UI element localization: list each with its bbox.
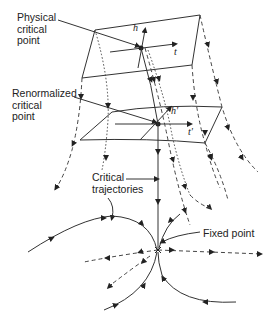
- h-prime-symbol: h': [171, 105, 178, 116]
- diagram-canvas: [0, 0, 274, 325]
- h-symbol: h: [133, 22, 138, 33]
- t-symbol: t: [174, 46, 177, 57]
- t-prime-symbol: t': [188, 126, 193, 137]
- fixed-point-label: Fixed point: [203, 228, 254, 240]
- leader-lines: [58, 20, 200, 242]
- critical-trajectory-main: [141, 48, 158, 250]
- physical-critical-point-label: Physical critical point: [17, 12, 56, 47]
- renormalized-critical-plane: [80, 106, 222, 143]
- renormalized-critical-point-label: Renormalized critical point: [12, 88, 77, 123]
- critical-trajectories-label: Critical trajectories: [92, 172, 143, 195]
- rg-flow-diagram: Physical critical point Renormalized cri…: [0, 0, 274, 325]
- upper-axes: [110, 30, 175, 68]
